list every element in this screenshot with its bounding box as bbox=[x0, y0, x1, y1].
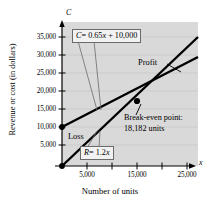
y-axis-symbol: C bbox=[66, 8, 71, 17]
break-even-label-line1: Break-even point: bbox=[124, 113, 183, 122]
break-even-chart-figure: C x 35,000 30,000 25,000 20,000 15,000 1… bbox=[0, 0, 211, 209]
origin-marker bbox=[59, 163, 65, 169]
x-tick-label-5000: 5,000 bbox=[67, 171, 107, 179]
x-tick-label-15000: 15,000 bbox=[117, 171, 157, 179]
x-tick-label-25000: 25,000 bbox=[167, 171, 207, 179]
cost-intercept-marker bbox=[59, 124, 65, 130]
profit-region-label: Profit bbox=[138, 58, 157, 67]
cost-equation-constant: + 10,000 bbox=[108, 31, 137, 40]
cost-equation-operator: = 0.65 bbox=[81, 31, 102, 40]
break-even-label-line2: 18,182 units bbox=[124, 124, 165, 133]
loss-region-label: Loss bbox=[68, 132, 84, 141]
revenue-equation-x: x bbox=[106, 148, 110, 157]
plot-background bbox=[62, 22, 198, 166]
revenue-equation-operator: = 1.2 bbox=[89, 148, 106, 157]
cost-equation-x: x bbox=[102, 31, 106, 40]
break-even-marker bbox=[134, 98, 140, 104]
revenue-equation-callout: R= 1.2x bbox=[80, 146, 114, 160]
x-axis-title: Number of units bbox=[40, 186, 180, 196]
x-axis-symbol: x bbox=[199, 158, 203, 167]
cost-equation-callout: C= 0.65x + 10,000 bbox=[72, 29, 141, 43]
y-axis-title: Revenue or cost (in dollars) bbox=[8, 25, 17, 155]
